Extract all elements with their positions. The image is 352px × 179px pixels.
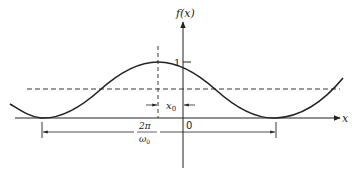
period-denominator-sub: 0 <box>146 138 150 145</box>
period-denominator: ω0 <box>139 134 150 145</box>
origin-label: 0 <box>186 120 192 131</box>
tick-one-label: 1 <box>174 57 180 68</box>
offset-label: x0 <box>166 100 176 113</box>
diagram-canvas: f(x) x 1 0 x0 2π ω0 <box>0 0 352 179</box>
function-curve <box>10 62 343 118</box>
period-numerator: 2π <box>138 121 152 131</box>
offset-label-sub: 0 <box>172 105 176 113</box>
x-axis-label: x <box>342 112 349 125</box>
y-axis-label: f(x) <box>175 7 195 20</box>
